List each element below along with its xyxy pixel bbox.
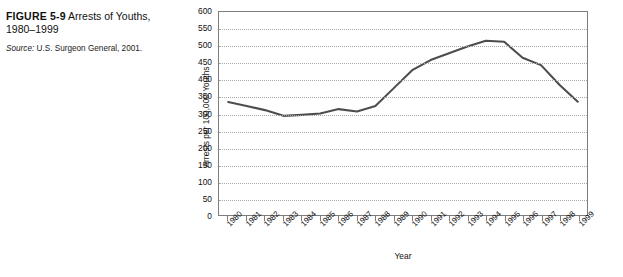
gridline: [219, 46, 587, 47]
data-line-series: [219, 12, 587, 215]
y-axis-ticks: 050100150200250300350400450500550600: [178, 0, 212, 277]
gridline: [219, 115, 587, 116]
figure-caption: FIGURE 5-9 Arrests of Youths, 1980–1999 …: [6, 10, 174, 54]
y-axis-tick-label: 400: [178, 75, 212, 83]
line-chart: Arrests per 100,000 Youths 0501001502002…: [178, 0, 623, 277]
y-axis-tick-label: 450: [178, 58, 212, 66]
y-axis-tick-label: 50: [178, 195, 212, 203]
gridline: [219, 149, 587, 150]
figure-container: FIGURE 5-9 Arrests of Youths, 1980–1999 …: [0, 0, 623, 277]
gridline: [219, 80, 587, 81]
gridline: [219, 183, 587, 184]
gridline: [219, 97, 587, 98]
gridline: [219, 166, 587, 167]
y-axis-tick-label: 500: [178, 41, 212, 49]
gridline: [219, 200, 587, 201]
x-axis-label: Year: [218, 251, 588, 261]
y-axis-tick-label: 150: [178, 161, 212, 169]
y-axis-tick-label: 200: [178, 144, 212, 152]
y-axis-tick-label: 250: [178, 127, 212, 135]
figure-source: Source: U.S. Surgeon General, 2001.: [6, 43, 174, 54]
y-axis-tick-label: 100: [178, 178, 212, 186]
gridline: [219, 29, 587, 30]
y-axis-tick-label: 300: [178, 110, 212, 118]
y-axis-tick-label: 0: [178, 212, 212, 220]
figure-number: FIGURE 5-9: [6, 10, 66, 22]
y-axis-tick-label: 550: [178, 24, 212, 32]
source-text: U.S. Surgeon General, 2001.: [37, 44, 143, 53]
plot-area: [218, 11, 588, 216]
source-label: Source:: [6, 44, 34, 53]
gridline: [219, 63, 587, 64]
figure-title: FIGURE 5-9 Arrests of Youths, 1980–1999: [6, 10, 174, 36]
y-axis-tick-label: 600: [178, 7, 212, 15]
gridline: [219, 132, 587, 133]
y-axis-tick-label: 350: [178, 92, 212, 100]
